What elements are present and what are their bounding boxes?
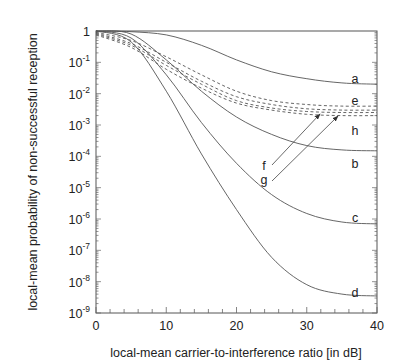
y-tick-label: 10-4 <box>69 147 91 164</box>
y-tick-labels: 110-110-210-310-410-510-610-710-810-9 <box>69 25 91 321</box>
x-tick-label: 0 <box>93 319 100 333</box>
curve-label-d: d <box>352 286 359 300</box>
curve-labels: aehbcd <box>352 72 359 300</box>
curve-a <box>96 31 377 84</box>
annotation-label-g: g <box>261 173 268 187</box>
x-tick-label: 40 <box>370 319 384 333</box>
y-axis-title: local-mean probability of non-successful… <box>26 33 40 310</box>
y-tick-label: 10-8 <box>69 273 91 290</box>
curves <box>96 31 377 296</box>
x-tick-label: 10 <box>159 319 173 333</box>
chart: 110-110-210-310-410-510-610-710-810-9 01… <box>0 0 401 362</box>
x-tick-labels: 010203040 <box>93 319 384 333</box>
x-axis-title: local-mean carrier-to-interference ratio… <box>110 346 362 360</box>
curve-label-b: b <box>352 157 359 171</box>
y-minor-ticks <box>96 32 377 313</box>
y-tick-label: 10-3 <box>69 116 91 133</box>
curve-label-c: c <box>352 211 358 225</box>
plot-frame <box>96 31 377 313</box>
x-tick-label: 20 <box>230 319 244 333</box>
annotation-label-f: f <box>262 159 266 173</box>
annotations: fg <box>261 114 338 187</box>
y-tick-label: 10-1 <box>69 53 91 70</box>
y-tick-label: 10-6 <box>69 210 91 227</box>
curve-label-h: h <box>352 124 359 138</box>
y-tick-label: 10-5 <box>69 179 91 196</box>
x-tick-label: 30 <box>300 319 314 333</box>
x-ticks <box>96 307 377 313</box>
y-tick-label: 10-2 <box>69 85 91 102</box>
y-tick-label: 1 <box>83 25 90 39</box>
y-tick-label: 10-9 <box>69 304 91 321</box>
curve-label-e: e <box>352 94 359 108</box>
curve-label-a: a <box>352 72 359 86</box>
curve-f <box>96 33 377 110</box>
curve-g <box>96 34 377 113</box>
y-tick-label: 10-7 <box>69 241 91 258</box>
